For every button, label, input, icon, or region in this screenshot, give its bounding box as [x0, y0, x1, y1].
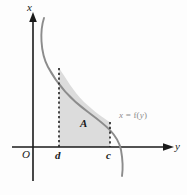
- bound-label-c: c: [106, 150, 111, 161]
- vertical-axis-label: x: [27, 2, 32, 13]
- bound-label-d: d: [55, 150, 61, 161]
- horizontal-axis-arrowhead: [163, 143, 174, 151]
- vertical-axis-arrowhead: [29, 12, 37, 22]
- figure-container: x y O d c A x = f(y): [0, 0, 187, 195]
- horizontal-axis-label: y: [175, 141, 180, 152]
- curve-equation-close-paren: ): [144, 110, 147, 120]
- area-under-curve-figure: [0, 0, 187, 195]
- region-label-a: A: [80, 118, 87, 129]
- curve-equation-label: x = f(y): [119, 111, 147, 120]
- origin-label: O: [22, 149, 30, 160]
- shaded-region-a: [59, 68, 110, 147]
- curve-equation-operator: = f(: [123, 110, 140, 120]
